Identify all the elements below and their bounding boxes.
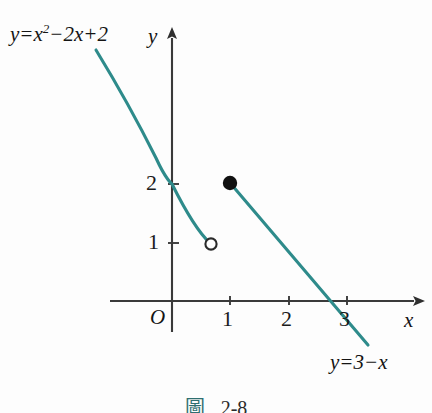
y-tick-label-2: 2 xyxy=(146,172,157,194)
y-tick-label-1: 1 xyxy=(148,231,159,253)
parabola-equation-tail: −2x+2 xyxy=(49,22,108,46)
figure-caption-symbol: 圖 xyxy=(185,397,207,413)
figure-caption: 圖 2-8 xyxy=(0,392,432,413)
origin-label: O xyxy=(150,307,165,328)
x-tick-label-2: 2 xyxy=(281,308,292,330)
line-equation-label: y=3−x xyxy=(330,352,387,373)
figure-caption-number: 2-8 xyxy=(221,397,248,413)
y-axis-label: y xyxy=(148,26,157,47)
x-tick-label-3: 3 xyxy=(339,308,350,330)
x-tick-label-1: 1 xyxy=(222,308,233,330)
open-circle-endpoint xyxy=(205,238,216,249)
parabola-equation-lead: y=x xyxy=(10,22,43,46)
parabola-equation-label: y=x2−2x+2 xyxy=(10,22,108,45)
filled-dot-endpoint xyxy=(223,176,237,190)
parabola-curve xyxy=(96,50,210,243)
figure-container: y=x2−2x+2 y=3−x y x O 2 1 1 2 3 圖 2-8 xyxy=(0,0,432,413)
x-axis-label: x xyxy=(404,310,413,331)
